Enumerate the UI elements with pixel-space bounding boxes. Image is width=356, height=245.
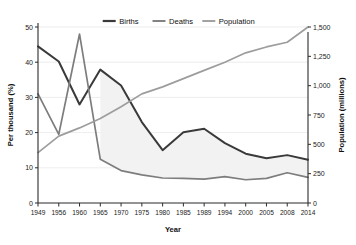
y-axis-right-title: Population (millions): [337, 77, 346, 153]
y-axis-right-tick-label: 750: [313, 112, 325, 119]
x-axis-tick-label: 2008: [280, 209, 295, 216]
legend-label-births: Births: [119, 17, 139, 26]
y-axis-left-tick-label: 20: [25, 129, 33, 136]
legend-item-deaths: Deaths: [153, 17, 194, 26]
y-axis-left-tick-label: 40: [25, 59, 33, 66]
legend-label-deaths: Deaths: [169, 17, 193, 26]
legend-label-population: Population: [219, 17, 255, 26]
x-axis-tick-label: 1985: [176, 209, 191, 216]
x-axis-tick-label: 2014: [301, 209, 316, 216]
x-axis-tick-label: 1980: [155, 209, 170, 216]
x-axis-tick-label: 1960: [72, 209, 87, 216]
x-axis-tick-label: 1956: [51, 209, 66, 216]
x-axis-tick-label: 2005: [259, 209, 274, 216]
x-axis-tick-label: 1965: [93, 209, 108, 216]
y-axis-right-tick-label: 1,500: [313, 24, 331, 31]
x-axis-title: Year: [165, 225, 181, 234]
legend-item-births: Births: [103, 17, 139, 26]
y-axis-left-title: Per thousand (%): [6, 83, 15, 146]
x-axis-tick-label: 1949: [31, 209, 46, 216]
y-axis-left-tick-label: 50: [25, 24, 33, 31]
y-axis-left-tick-label: 30: [25, 94, 33, 101]
y-axis-right-tick-label: 1,250: [313, 53, 331, 60]
axes: 0102030405002505007501,0001,2501,5001949…: [25, 23, 330, 216]
legend-item-population: Population: [202, 17, 254, 26]
y-axis-right-tick-label: 250: [313, 170, 325, 177]
y-axis-left-tick-label: 0: [29, 200, 33, 207]
y-axis-left-tick-label: 10: [25, 164, 33, 171]
y-axis-right-tick-label: 500: [313, 141, 325, 148]
chart-container: 0102030405002505007501,0001,2501,5001949…: [0, 0, 356, 245]
x-axis-tick-label: 1989: [197, 209, 212, 216]
x-axis-tick-label: 2000: [238, 209, 253, 216]
x-axis-tick-label: 1970: [114, 209, 129, 216]
y-axis-right-tick-label: 0: [313, 200, 317, 207]
births-deaths-gap-area: [100, 70, 308, 180]
x-axis-tick-label: 1994: [218, 209, 233, 216]
chart-legend: BirthsDeathsPopulation: [103, 17, 255, 26]
demographic-line-chart: 0102030405002505007501,0001,2501,5001949…: [0, 0, 356, 245]
x-axis-tick-label: 1975: [135, 209, 150, 216]
y-axis-right-tick-label: 1,000: [313, 82, 331, 89]
series-line-population: [38, 27, 308, 153]
